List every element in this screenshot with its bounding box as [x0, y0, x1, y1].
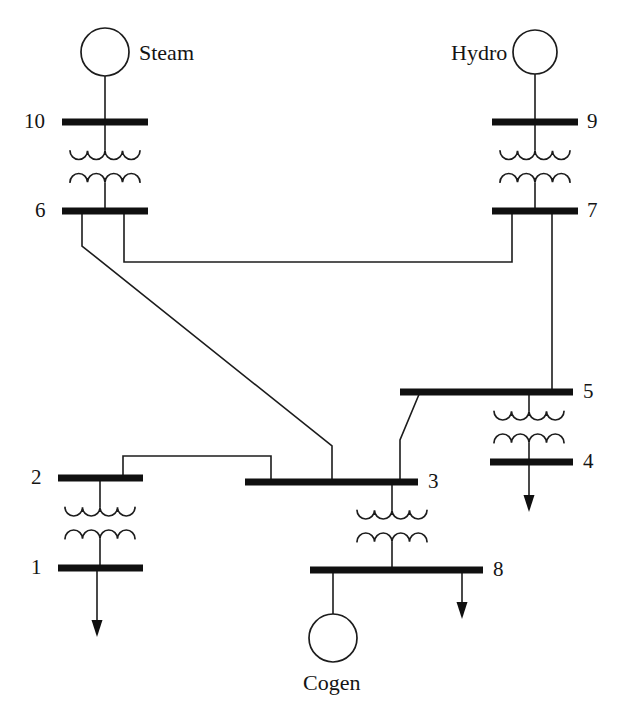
busbar-1: [58, 565, 143, 572]
generator-symbol-hydro: [513, 30, 557, 74]
busbar-5: [400, 389, 573, 396]
busbar-2: [58, 475, 143, 482]
load-bus-1: [92, 568, 103, 637]
transformer-5-4: [494, 392, 564, 462]
transformer-2-1: [65, 478, 135, 568]
busbar-10: [62, 119, 148, 126]
load-layer: [92, 462, 535, 637]
transformer-winding-primary: [494, 411, 564, 420]
busbar-3: [245, 479, 418, 486]
bus-label-9: 9: [587, 111, 598, 132]
transformer-10-6: [70, 122, 140, 211]
transformer-winding-secondary: [65, 530, 135, 539]
transformer-winding-primary: [65, 507, 135, 516]
busbar-8: [310, 567, 483, 574]
transformer-winding-secondary: [500, 174, 570, 183]
bus-label-7: 7: [587, 200, 598, 221]
generator-symbol-cogen: [309, 614, 357, 662]
bus-label-3: 3: [428, 471, 439, 492]
bus-label-4: 4: [583, 451, 594, 472]
bus-label-1: 1: [31, 557, 42, 578]
transmission-line-6-3: [82, 211, 332, 482]
single-line-diagram: 10697542138SteamHydroCogen: [0, 0, 620, 712]
transformer-winding-secondary: [70, 174, 140, 183]
load-bus-4: [524, 462, 535, 512]
busbar-layer: [58, 119, 578, 574]
transmission-line-5-3: [400, 392, 420, 482]
bus-label-5: 5: [583, 381, 594, 402]
generator-label-steam: Steam: [139, 42, 194, 64]
generator-label-cogen: Cogen: [303, 672, 360, 694]
transmission-line-6-7: [124, 211, 512, 262]
busbar-4: [490, 459, 573, 466]
transformer-winding-primary: [70, 151, 140, 160]
generator-label-hydro: Hydro: [451, 42, 507, 64]
busbar-9: [492, 119, 578, 126]
transformer-winding-secondary: [494, 434, 564, 443]
busbar-6: [62, 208, 148, 215]
generator-symbol-steam: [81, 28, 129, 76]
transformer-3-8: [357, 482, 427, 570]
diagram-canvas: [0, 0, 620, 712]
transformer-winding-primary: [357, 510, 427, 519]
bus-label-10: 10: [24, 111, 45, 132]
load-arrow-head: [524, 495, 535, 512]
transmission-line-2-3: [123, 456, 271, 482]
transformer-layer: [65, 122, 570, 570]
generator-lead-layer: [105, 74, 535, 614]
transmission-line-layer: [82, 211, 552, 482]
transformer-winding-secondary: [357, 533, 427, 542]
load-bus-8: [457, 570, 468, 619]
load-arrow-head: [92, 620, 103, 637]
bus-label-2: 2: [31, 467, 42, 488]
busbar-7: [492, 208, 578, 215]
transformer-winding-primary: [500, 151, 570, 160]
transformer-9-7: [500, 122, 570, 211]
load-arrow-head: [457, 602, 468, 619]
bus-label-6: 6: [35, 200, 46, 221]
bus-label-8: 8: [493, 559, 504, 580]
